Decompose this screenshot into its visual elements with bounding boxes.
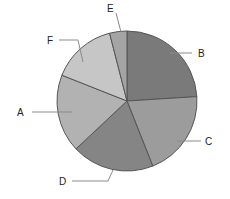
- label-c: C: [205, 136, 212, 147]
- pie-chart: B C D A F E: [0, 0, 230, 199]
- pie-slices: [57, 31, 197, 171]
- label-b: B: [198, 48, 205, 59]
- label-f: F: [47, 35, 53, 46]
- slice-b: [127, 31, 197, 101]
- leader-line-d: [72, 170, 113, 181]
- label-a: A: [17, 107, 24, 118]
- leader-line-e: [116, 13, 121, 32]
- label-e: E: [107, 3, 114, 14]
- label-d: D: [59, 176, 66, 187]
